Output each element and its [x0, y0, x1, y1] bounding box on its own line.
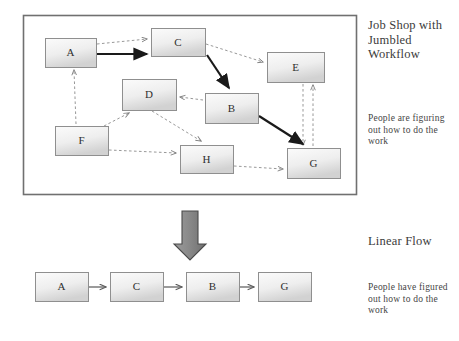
node-box-G[interactable] — [288, 149, 341, 179]
edge-F-to-D-dashed — [104, 113, 129, 126]
edge-B-to-D-dashed — [180, 97, 203, 100]
edge-F-to-A-dashed — [74, 70, 76, 124]
node-box-B[interactable] — [206, 94, 259, 124]
linear-node-box-A[interactable] — [36, 273, 89, 302]
edge-B-to-G-solid — [259, 116, 303, 144]
job-shop-heading: Job Shop with Jumbled Workflow — [368, 18, 456, 62]
node-box-H[interactable] — [181, 146, 234, 174]
linear-node-box-B[interactable] — [187, 273, 240, 302]
job-shop-description: People are figuring out how to do the wo… — [368, 113, 456, 148]
diagram-canvas: A C E D B F H G A C B G Job Shop with Ju… — [0, 0, 459, 341]
node-box-F[interactable] — [56, 127, 109, 156]
linear-flow-description: People have figured out how to do the wo… — [368, 282, 456, 317]
edge-D-to-H-dashed — [152, 111, 201, 141]
edge-C-to-B-solid — [207, 55, 229, 88]
node-box-A[interactable] — [46, 39, 97, 68]
linear-flow-heading: Linear Flow — [368, 234, 456, 249]
jumbled-nodes — [46, 29, 341, 179]
linear-node-box-C[interactable] — [111, 273, 164, 302]
node-box-E[interactable] — [268, 53, 325, 83]
linear-node-box-G[interactable] — [259, 273, 312, 302]
transition-down-arrow — [174, 211, 206, 260]
edge-A-to-C-dashed — [97, 39, 147, 44]
edge-F-to-H-dashed — [109, 150, 176, 153]
node-box-C[interactable] — [152, 29, 206, 57]
node-box-D[interactable] — [123, 80, 177, 111]
edge-C-to-E-dashed — [206, 44, 263, 62]
edge-H-to-G-dashed — [234, 166, 283, 169]
